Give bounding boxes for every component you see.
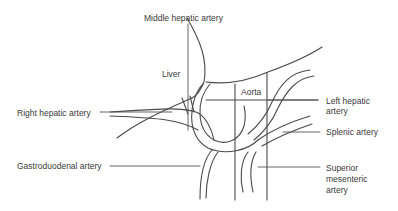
label-aorta: Aorta <box>241 87 261 98</box>
sma-curve-1 <box>241 152 248 192</box>
label-gastroduodenal-artery: Gastroduodenal artery <box>17 161 102 172</box>
hepatic-loop-outer <box>200 84 245 142</box>
left-hepatic-curve-inner <box>254 76 314 140</box>
right-hepatic-branch-upper <box>110 109 214 140</box>
label-splenic-artery: Splenic artery <box>326 127 378 138</box>
left-hepatic-curve-outer <box>248 70 310 134</box>
splenic-curve-lower <box>262 124 312 146</box>
label-middle-hepatic-artery: Middle hepatic artery <box>144 13 223 24</box>
label-left-hepatic-artery-2: artery <box>326 106 348 117</box>
right-hepatic-branch-lower <box>110 116 198 130</box>
artery-diagram: Middle hepatic artery Liver Aorta Right … <box>0 0 398 211</box>
gastroduodenal-right <box>206 152 218 198</box>
liver-outline <box>187 18 205 98</box>
liver-top-border <box>206 47 322 83</box>
label-right-hepatic-artery: Right hepatic artery <box>17 108 91 119</box>
label-superior-mesenteric-2: mesenteric <box>326 174 368 185</box>
label-liver: Liver <box>162 69 180 80</box>
label-superior-mesenteric-1: Superior <box>326 163 358 174</box>
liver-lower-edge <box>117 98 192 138</box>
sma-curve-2 <box>251 152 256 192</box>
label-left-hepatic-artery-1: Left hepatic <box>326 96 370 107</box>
label-superior-mesenteric-3: artery <box>326 185 348 196</box>
